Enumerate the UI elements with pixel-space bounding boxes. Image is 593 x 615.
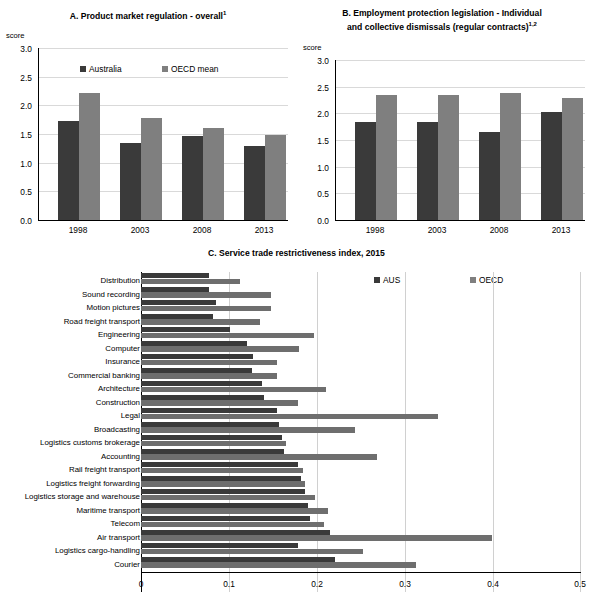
category-label: Engineering xyxy=(98,331,140,339)
category-label: Air transport xyxy=(97,534,140,542)
bar-oecd xyxy=(141,535,492,540)
bar-oecd xyxy=(141,373,277,378)
x-tick-label: 2003 xyxy=(120,226,160,234)
panel-a: A. Product market regulation - overall1 … xyxy=(0,8,296,240)
category-label: Computer xyxy=(105,345,140,353)
category-label: Legal xyxy=(121,412,140,420)
panel-a-title-text: A. Product market regulation - overall xyxy=(70,11,223,21)
bar-aus xyxy=(141,300,216,305)
bar-oecd-mean xyxy=(79,93,100,220)
x-tick-label: 0.3 xyxy=(385,580,425,588)
panel-c-title: C. Service trade restrictiveness index, … xyxy=(0,248,593,259)
category-label: Road freight transport xyxy=(64,318,140,326)
bar-oecd xyxy=(141,333,314,338)
x-tick-label: 0.5 xyxy=(560,580,593,588)
bar-australia xyxy=(479,132,500,221)
bar-oecd xyxy=(141,400,298,405)
category-label: Telecom xyxy=(111,520,140,528)
bar-aus xyxy=(141,530,330,535)
category-label: Sound recording xyxy=(82,291,140,299)
panel-a-title-superscript: 1 xyxy=(223,10,226,16)
bar-aus xyxy=(141,422,279,427)
x-tick-label: 1998 xyxy=(58,226,98,234)
category-label: Insurance xyxy=(105,358,140,366)
bar-aus xyxy=(141,354,253,359)
bar-oecd xyxy=(141,522,324,527)
y-tick-label: 2.5 xyxy=(6,74,32,82)
category-label: Accounting xyxy=(101,453,140,461)
bar-oecd-mean xyxy=(203,128,224,220)
bar-oecd xyxy=(141,508,328,513)
legend-swatch-icon xyxy=(162,66,168,72)
y-tick-label: 0.0 xyxy=(303,217,329,225)
x-axis-line xyxy=(38,220,288,221)
gridline xyxy=(405,272,406,592)
gridline xyxy=(38,77,288,78)
bar-oecd-mean xyxy=(376,95,397,220)
x-tick-label: 0.2 xyxy=(297,580,337,588)
panel-a-title: A. Product market regulation - overall1 xyxy=(0,8,296,22)
bar-aus xyxy=(141,449,284,454)
y-tick-label: 1.5 xyxy=(6,131,32,139)
bar-aus xyxy=(141,273,209,278)
bar-australia xyxy=(355,122,376,220)
bar-aus xyxy=(141,327,230,332)
y-axis-line xyxy=(335,60,336,220)
panel-b-plot xyxy=(335,60,585,220)
category-label: Maritime transport xyxy=(76,507,140,515)
y-tick-label: 3.0 xyxy=(6,45,32,53)
bar-aus xyxy=(141,395,264,400)
x-tick-label: 2013 xyxy=(244,226,284,234)
category-label: Logistics freight forwarding xyxy=(46,480,140,488)
bar-aus xyxy=(141,435,282,440)
bar-oecd xyxy=(141,279,240,284)
bar-oecd xyxy=(141,562,416,567)
bar-australia xyxy=(120,143,141,220)
x-tick-label: 2003 xyxy=(417,226,457,234)
x-axis-line xyxy=(141,572,581,573)
category-label: Broadcasting xyxy=(94,426,140,434)
x-tick-label: 2013 xyxy=(541,226,581,234)
x-tick-label: 0 xyxy=(121,580,161,588)
bar-oecd-mean xyxy=(438,95,459,220)
bar-oecd xyxy=(141,481,305,486)
bar-aus xyxy=(141,557,335,562)
y-tick-label: 0.5 xyxy=(303,190,329,198)
panel-b: B. Employment protection legislation - I… xyxy=(297,8,593,240)
gridline xyxy=(335,60,585,61)
bar-aus xyxy=(141,381,262,386)
bar-aus xyxy=(141,341,247,346)
gridline xyxy=(493,272,494,592)
bar-oecd xyxy=(141,306,271,311)
bar-aus xyxy=(141,476,301,481)
y-tick-label: 1.0 xyxy=(6,160,32,168)
x-tick-label: 0.4 xyxy=(473,580,513,588)
bar-aus xyxy=(141,543,298,548)
bar-australia xyxy=(58,121,79,220)
y-tick-label: 1.5 xyxy=(303,137,329,145)
bar-oecd xyxy=(141,319,260,324)
y-tick-label: 2.5 xyxy=(303,84,329,92)
category-label: Distribution xyxy=(101,277,140,285)
legend-label: OECD mean xyxy=(171,64,218,74)
bar-australia xyxy=(417,122,438,220)
x-tick-label: 1998 xyxy=(355,226,395,234)
bar-oecd xyxy=(141,441,286,446)
panel-c-labels: Distribution Sound recording Motion pict… xyxy=(0,272,140,592)
panel-b-title: B. Employment protection legislation - I… xyxy=(297,8,587,33)
bar-oecd xyxy=(141,387,326,392)
bar-aus xyxy=(141,503,308,508)
panel-c: C. Service trade restrictiveness index, … xyxy=(0,246,593,615)
bar-australia xyxy=(182,136,203,220)
bar-oecd xyxy=(141,427,355,432)
category-label: Logistics cargo-handling xyxy=(55,547,140,555)
bar-oecd xyxy=(141,346,299,351)
y-tick-label: 0.0 xyxy=(6,217,32,225)
bar-aus xyxy=(141,368,252,373)
bar-aus xyxy=(141,287,209,292)
category-label: Courier xyxy=(114,561,140,569)
bar-oecd xyxy=(141,549,363,554)
bar-oecd xyxy=(141,468,303,473)
category-label: Commercial banking xyxy=(68,372,140,380)
y-tick-label: 1.0 xyxy=(303,164,329,172)
